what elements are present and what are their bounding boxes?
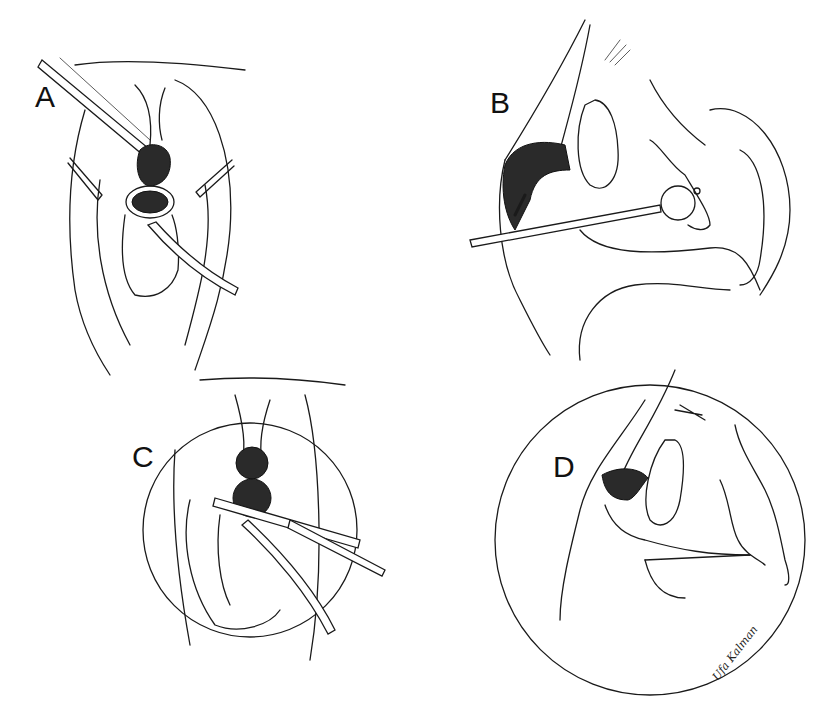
- panel-b: B: [460, 0, 834, 370]
- panel-b-drawing: [460, 0, 834, 370]
- panel-c-drawing: [120, 370, 400, 702]
- panel-d: D Ufa Kalman: [480, 360, 834, 702]
- panel-c: C: [120, 370, 400, 702]
- panel-a: A: [0, 0, 300, 380]
- panel-a-drawing: [0, 0, 300, 380]
- panel-d-drawing: [480, 360, 834, 702]
